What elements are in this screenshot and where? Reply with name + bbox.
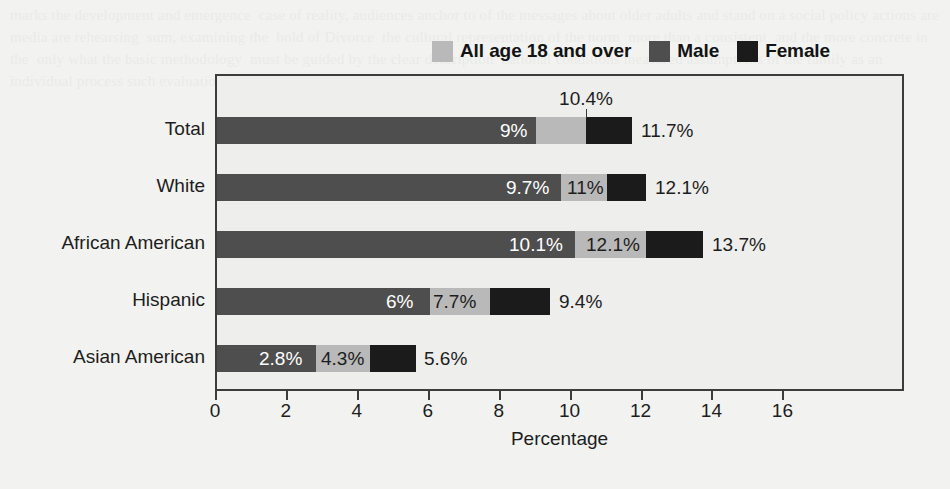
bar-value-male-hispanic: 6% xyxy=(386,288,413,315)
bar-value-all-white: 11% xyxy=(567,174,604,201)
legend-label-female: Female xyxy=(765,40,830,62)
bar-value-all-total: 10.4% xyxy=(526,88,646,110)
bar-chart-figure: All age 18 and over Male Female Total Wh… xyxy=(0,0,950,489)
x-tick-label-12: 12 xyxy=(630,400,651,422)
x-tick-12 xyxy=(641,391,643,400)
chart-legend: All age 18 and over Male Female xyxy=(432,38,839,64)
x-tick-label-4: 4 xyxy=(352,400,363,422)
bar-value-female-total: 11.7% xyxy=(641,117,693,144)
bar-value-female-white: 12.1% xyxy=(655,174,709,201)
legend-item-female: Female xyxy=(737,40,830,62)
legend-item-male: Male xyxy=(649,40,719,62)
x-tick-label-2: 2 xyxy=(281,400,292,422)
legend-label-male: Male xyxy=(677,40,719,62)
y-label-african-american: African American xyxy=(61,229,205,256)
x-tick-label-14: 14 xyxy=(701,400,722,422)
plot-area: 9% 11.7% 10.4% 9.7% 11% 12.1% 10.1% 12.1… xyxy=(215,74,904,391)
bar-value-all-hispanic: 7.7% xyxy=(433,288,476,315)
y-label-total: Total xyxy=(165,115,205,142)
x-tick-label-6: 6 xyxy=(423,400,434,422)
bar-value-male-african-american: 10.1% xyxy=(509,231,563,258)
bar-value-male-asian-american: 2.8% xyxy=(259,345,302,372)
bar-value-male-white: 9.7% xyxy=(506,174,549,201)
y-axis-category-labels: Total White African American Hispanic As… xyxy=(0,74,205,391)
x-tick-4 xyxy=(357,391,359,400)
x-tick-0 xyxy=(215,391,217,400)
legend-swatch-female-icon xyxy=(737,41,758,62)
x-tick-label-8: 8 xyxy=(493,400,504,422)
x-tick-14 xyxy=(711,391,713,400)
legend-swatch-all-icon xyxy=(432,41,453,62)
legend-item-all-age-18-and-over: All age 18 and over xyxy=(432,40,631,62)
x-tick-6 xyxy=(428,391,430,400)
x-tick-label-16: 16 xyxy=(772,400,793,422)
bar-value-female-asian-american: 5.6% xyxy=(424,345,467,372)
x-tick-10 xyxy=(570,391,572,400)
plot-inner: 9% 11.7% 10.4% 9.7% 11% 12.1% 10.1% 12.1… xyxy=(217,76,902,389)
y-label-white: White xyxy=(156,172,205,199)
legend-label-all: All age 18 and over xyxy=(460,40,631,62)
y-label-hispanic: Hispanic xyxy=(132,286,205,313)
bar-segment-male-total xyxy=(217,117,536,144)
bar-value-female-african-american: 13.7% xyxy=(712,231,766,258)
x-tick-16 xyxy=(782,391,784,400)
legend-swatch-male-icon xyxy=(649,41,670,62)
x-axis-tick-labels: 0 2 4 6 8 10 12 14 16 xyxy=(215,400,904,426)
x-tick-2 xyxy=(286,391,288,400)
y-label-asian-american: Asian American xyxy=(73,343,205,370)
bar-value-male-total: 9% xyxy=(500,117,527,144)
bar-value-all-african-american: 12.1% xyxy=(586,231,640,258)
bar-callout-tick-all-total xyxy=(586,109,587,118)
bar-value-all-asian-american: 4.3% xyxy=(321,345,364,372)
x-tick-8 xyxy=(499,391,501,400)
x-tick-label-0: 0 xyxy=(210,400,221,422)
x-axis-title: Percentage xyxy=(215,428,904,450)
bar-value-female-hispanic: 9.4% xyxy=(559,288,602,315)
x-tick-label-10: 10 xyxy=(559,400,580,422)
